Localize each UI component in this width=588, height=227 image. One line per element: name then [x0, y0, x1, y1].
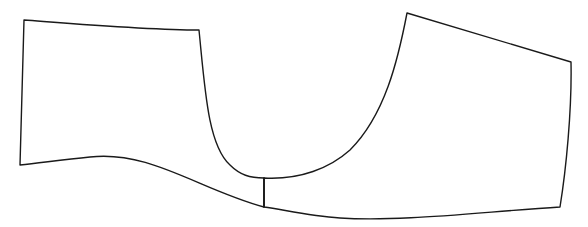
left-panel-outline	[20, 20, 264, 207]
pattern-diagram	[0, 0, 588, 227]
right-panel-outline	[264, 13, 571, 219]
